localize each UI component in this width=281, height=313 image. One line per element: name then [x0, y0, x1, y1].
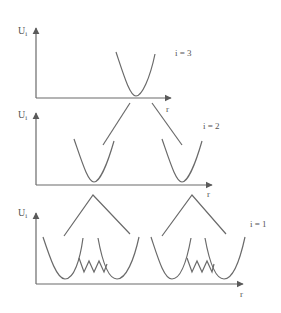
- potential-well: [74, 139, 114, 182]
- x-axis-label: r: [166, 104, 169, 114]
- potential-well: [43, 237, 83, 279]
- x-axis-label: r: [207, 189, 210, 199]
- potential-well: [116, 52, 155, 96]
- panel-level-1: [36, 213, 245, 284]
- potential-well: [205, 237, 245, 279]
- y-axis-label: Ui: [18, 109, 27, 122]
- panel-level-3: [36, 28, 171, 98]
- potential-well: [162, 139, 202, 182]
- level-label: i = 1: [250, 219, 267, 229]
- x-axis-label: r: [240, 289, 243, 299]
- connector-lines-right: [162, 195, 226, 236]
- level-label: i = 2: [203, 121, 220, 131]
- connector-line: [103, 103, 130, 145]
- y-axis-label: Ui: [18, 25, 27, 38]
- panel-level-2: [36, 113, 212, 185]
- y-axis-label: Ui: [18, 207, 27, 220]
- hierarchical-potential-diagram: Ui r i = 3 Ui r i = 2 Ui r i = 1: [0, 0, 281, 313]
- potential-well: [151, 237, 191, 279]
- connector-lines-left: [64, 195, 130, 236]
- level-label: i = 3: [175, 48, 192, 58]
